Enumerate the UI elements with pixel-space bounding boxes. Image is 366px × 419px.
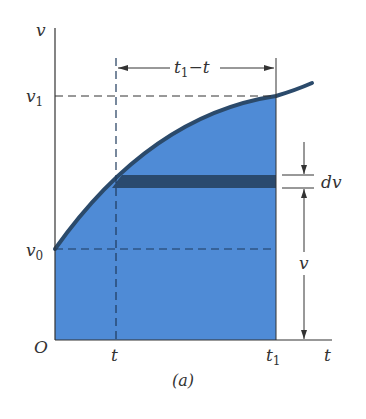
- v-height-label: v: [299, 253, 309, 273]
- arrowhead-left-icon: [118, 65, 128, 71]
- v0-label: v0: [26, 240, 43, 263]
- figure-caption: (a): [172, 371, 194, 390]
- x-axis-label: t: [324, 345, 331, 365]
- arrowhead-down-icon: [301, 165, 307, 174]
- arrowhead-up-icon: [301, 189, 307, 198]
- interval-label: t1−t: [174, 57, 210, 80]
- t1-tick-label: t1: [266, 345, 280, 368]
- y-axis-label: v: [36, 20, 46, 40]
- t-tick-label: t: [111, 345, 118, 365]
- dv-strip: [112, 175, 276, 188]
- arrowhead-right-icon: [264, 65, 274, 71]
- velocity-time-diagram: v v1 v0 O t t1 t t1−t dv v (a): [0, 0, 366, 419]
- arrowhead-down-icon-2: [301, 330, 307, 339]
- dv-label: dv: [321, 172, 342, 192]
- area-under-curve: [55, 96, 276, 340]
- v1-label: v1: [26, 86, 43, 109]
- origin-label: O: [34, 337, 48, 357]
